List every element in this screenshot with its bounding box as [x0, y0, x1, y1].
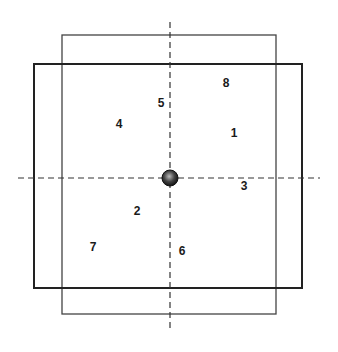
label-2: 2	[134, 204, 141, 218]
label-7: 7	[90, 240, 97, 254]
label-8: 8	[223, 76, 230, 90]
label-6: 6	[179, 244, 186, 258]
center-ball-icon	[162, 170, 178, 186]
label-3: 3	[241, 179, 248, 193]
label-1: 1	[231, 126, 238, 140]
position-diagram: 8 5 4 1 3 2 7 6	[0, 0, 338, 352]
label-5: 5	[158, 96, 165, 110]
label-4: 4	[116, 117, 123, 131]
